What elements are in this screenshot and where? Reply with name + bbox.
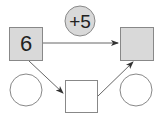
input-box: 6	[10, 28, 43, 61]
left-circle[interactable]	[10, 74, 42, 106]
operator-label: +5	[69, 11, 91, 32]
middle-box[interactable]	[66, 81, 98, 113]
right-circle[interactable]	[120, 74, 152, 106]
output-box[interactable]	[121, 28, 154, 61]
input-value: 6	[20, 31, 32, 56]
operator-circle: +5	[65, 6, 95, 36]
arrow-diagram: +5 6	[0, 0, 161, 119]
